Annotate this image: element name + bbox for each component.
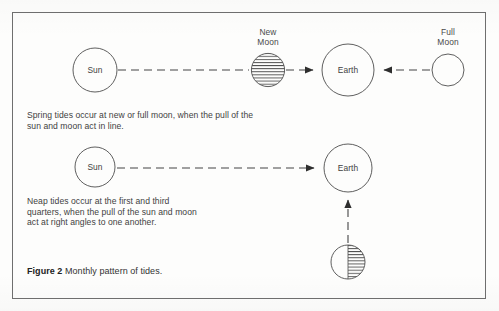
quarter-moon-group [330, 244, 366, 280]
spring-tides-description: Spring tides occur at new or full moon, … [27, 110, 327, 131]
full-moon-label-line1: Full [441, 27, 455, 37]
tides-diagram: Sun New Moon Earth Full Moon Sun Earth [0, 0, 499, 311]
figure-caption: Figure 2 Monthly pattern of tides. [27, 266, 162, 276]
new-moon-group: New Moon [251, 27, 284, 87]
sun-label-neap: Sun [87, 162, 102, 172]
full-moon-circle [432, 54, 464, 86]
earth-label-spring: Earth [338, 65, 359, 75]
full-moon-label-line2: Moon [437, 37, 459, 47]
figure-caption-number: Figure 2 [27, 266, 62, 276]
new-moon-label-line1: New [259, 27, 277, 37]
neap-tides-description: Neap tides occur at the first and third … [27, 196, 277, 228]
sun-label-spring: Sun [87, 65, 102, 75]
figure-page: Sun New Moon Earth Full Moon Sun Earth [0, 0, 499, 311]
earth-label-neap: Earth [338, 163, 359, 173]
full-moon-group: Full Moon [432, 27, 464, 86]
figure-caption-text: Monthly pattern of tides. [62, 266, 162, 276]
new-moon-label-line2: Moon [257, 37, 279, 47]
